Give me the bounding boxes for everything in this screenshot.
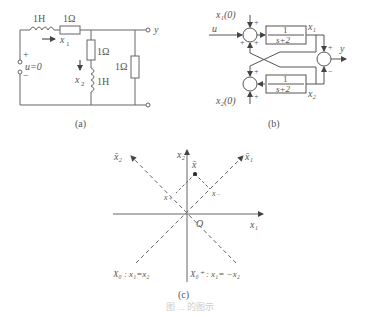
- svg-text:+: +: [254, 18, 259, 27]
- label-output-y: y: [339, 43, 345, 54]
- label-subspace-left: X₀ : x₁=x₂: [112, 269, 149, 279]
- label-input-u: u: [212, 23, 217, 34]
- label-inductor-2: 1H: [97, 76, 109, 87]
- label-axis-x1-bar: x̄₁: [244, 151, 253, 162]
- output-terminal-bottom: [146, 103, 150, 107]
- label-x2-out: x₂: [307, 88, 316, 99]
- label-axis-x2-bar: x̄₂: [113, 151, 122, 162]
- svg-text:−: −: [328, 67, 333, 76]
- block2-numerator: 1: [283, 74, 288, 84]
- source-terminal-top: [18, 60, 22, 64]
- label-x1-out: x₁: [307, 21, 316, 32]
- figure-caption: 图 ... 的图示: [115, 300, 265, 313]
- figure-canvas: 1H 1Ω 1Ω 1H 1Ω x 1 x 2 + u=0 − y (a): [0, 0, 365, 317]
- summing-junction-2: [243, 77, 257, 91]
- svg-text:2: 2: [81, 80, 85, 88]
- x1-bar-axis: [136, 156, 243, 263]
- label-output-y: y: [153, 24, 159, 35]
- label-axis-x2: x₂: [176, 149, 185, 160]
- label-subspace-right: X₀⁺ : x₁= −x₂: [189, 269, 240, 279]
- label-inductor-1: 1H: [33, 13, 45, 24]
- svg-text:+: +: [254, 38, 259, 47]
- projection-line: [195, 174, 210, 189]
- label-x1: x: [59, 34, 65, 45]
- label-source-plus: +: [23, 49, 29, 60]
- label-x2-initial: x₂(0): [215, 95, 236, 107]
- summing-junction-output: [317, 52, 331, 66]
- block2-denominator: s+2: [276, 84, 291, 94]
- label-proj-plus: x₊: [163, 193, 173, 202]
- svg-text:+: +: [254, 67, 259, 76]
- label-source-minus: −: [23, 70, 29, 81]
- label-origin: O: [196, 218, 203, 229]
- svg-text:+: +: [240, 38, 245, 47]
- state-point-marker: [193, 172, 197, 176]
- resistor-1ohm-shunt: [131, 56, 139, 78]
- inductor-1h-branch: [91, 68, 94, 92]
- resistor-1ohm-branch: [87, 40, 95, 60]
- label-x2: x: [74, 74, 80, 85]
- label-state-point: x̄: [191, 159, 197, 170]
- source-terminal-bottom: [18, 70, 22, 74]
- label-resistor-1: 1Ω: [63, 13, 75, 24]
- block1-numerator: 1: [283, 25, 288, 35]
- x2-bar-axis: [131, 156, 236, 263]
- svg-text:1: 1: [66, 40, 70, 48]
- label-x1-initial: x₁(0): [215, 9, 236, 21]
- state-space-plot: [113, 150, 263, 282]
- block1-denominator: s+2: [276, 35, 291, 45]
- label-resistor-3: 1Ω: [115, 61, 127, 72]
- caption-a: (a): [75, 118, 86, 130]
- caption-b: (b): [268, 118, 280, 130]
- label-axis-x1: x₁: [249, 219, 258, 230]
- output-terminal-top: [146, 28, 150, 32]
- inductor-1h-series: [30, 27, 54, 30]
- label-resistor-2: 1Ω: [97, 46, 109, 57]
- svg-text:+: +: [254, 92, 259, 101]
- resistor-1ohm-series: [60, 26, 80, 34]
- svg-text:+: +: [328, 43, 333, 52]
- label-proj-minus: x₋: [211, 189, 221, 198]
